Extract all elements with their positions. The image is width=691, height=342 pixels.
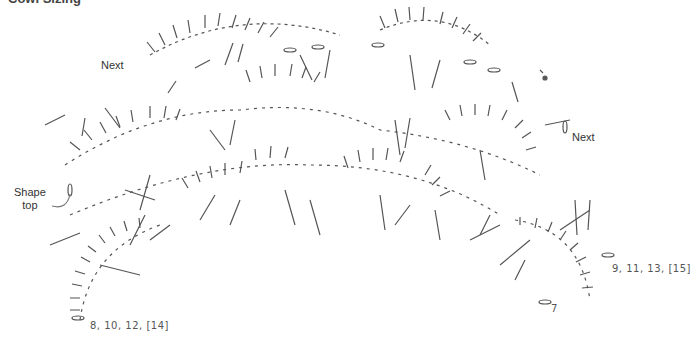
label-next-right: Next: [572, 131, 595, 144]
crochet-chart: Cowl Sizing: [0, 0, 691, 342]
label-shape-top: Shape top: [14, 186, 46, 212]
shell-lower: [70, 146, 577, 240]
shell-bottom: [50, 184, 614, 320]
shell-top-right: [372, 7, 547, 102]
label-row-7: 7: [551, 303, 558, 314]
shell-top-left: [147, 13, 340, 93]
shell-middle: [45, 64, 570, 180]
stitch-diagram: [0, 0, 691, 342]
label-shape-top-line2: top: [14, 199, 46, 212]
label-rows-left: 8, 10, 12, [14]: [90, 320, 169, 331]
label-shape-top-line1: Shape: [14, 186, 46, 199]
label-next-left: Next: [101, 59, 124, 72]
label-rows-right: 9, 11, 13, [15]: [612, 263, 691, 274]
